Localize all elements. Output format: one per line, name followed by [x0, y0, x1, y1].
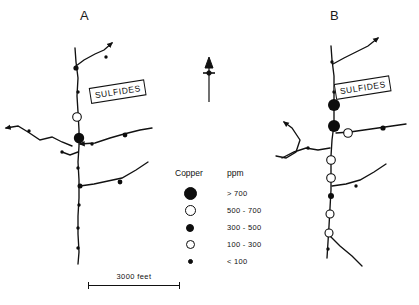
panel-a-traces	[6, 43, 152, 264]
sample-point	[76, 90, 79, 93]
sample-point	[90, 142, 93, 145]
legend-item-label: > 700	[205, 189, 247, 198]
legend-item: < 100	[175, 253, 295, 270]
sample-point	[104, 55, 107, 58]
north-arrow	[203, 57, 215, 102]
sample-point	[27, 129, 30, 132]
sample-point	[76, 246, 79, 249]
sample-point	[327, 156, 336, 165]
legend-swatch-tiny-filled-circle	[175, 259, 205, 264]
sample-point	[60, 150, 63, 153]
sample-point	[118, 180, 123, 185]
legend-title-ppm: ppm	[227, 168, 244, 178]
panel-label-b: B	[330, 8, 340, 23]
legend-title-copper: Copper	[175, 168, 227, 178]
sample-point	[330, 60, 333, 63]
scale-bar-rule	[88, 282, 180, 290]
sample-point	[380, 125, 385, 130]
sample-point	[327, 174, 336, 183]
sample-point	[328, 120, 340, 132]
sample-point	[326, 247, 329, 250]
sample-point	[76, 166, 79, 169]
sample-point	[306, 146, 309, 149]
legend-swatch-medium-open-circle	[175, 205, 205, 216]
scale-bar-tick-right	[179, 282, 180, 289]
legend-item-label: 300 - 500	[205, 223, 261, 232]
sample-point	[354, 184, 357, 187]
sample-point	[76, 226, 79, 229]
legend-header: Copper ppm	[175, 168, 295, 178]
legend-item: 300 - 500	[175, 219, 295, 236]
legend: Copper ppm > 700 500 - 700 300 - 500 100…	[175, 168, 295, 270]
legend-swatch-small-filled-circle	[175, 224, 205, 232]
panel-b-traces	[276, 38, 406, 266]
legend-item: > 700	[175, 185, 295, 202]
sample-point	[73, 113, 82, 122]
panel-label-a: A	[80, 8, 90, 23]
scale-bar: 3000 feet	[88, 272, 180, 290]
sample-point	[328, 193, 334, 199]
sample-point	[123, 133, 128, 138]
scale-bar-line	[88, 285, 180, 286]
sample-point	[325, 229, 333, 237]
legend-item-label: < 100	[205, 257, 247, 266]
sample-point	[74, 133, 84, 143]
sample-point	[73, 65, 78, 70]
legend-item-label: 100 - 300	[205, 240, 261, 249]
sample-point	[328, 99, 340, 111]
sample-point	[326, 210, 334, 218]
legend-swatch-small-open-circle	[175, 240, 205, 249]
legend-item: 500 - 700	[175, 202, 295, 219]
sample-point	[344, 129, 353, 138]
sample-point	[78, 184, 83, 189]
legend-item-label: 500 - 700	[205, 206, 261, 215]
legend-swatch-large-filled-circle	[175, 187, 205, 200]
scale-bar-label: 3000 feet	[88, 272, 180, 281]
sample-point	[77, 203, 80, 206]
scale-bar-tick-left	[88, 282, 89, 289]
legend-item: 100 - 300	[175, 236, 295, 253]
